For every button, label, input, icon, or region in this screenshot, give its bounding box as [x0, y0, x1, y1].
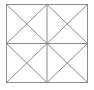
geometric-figure: [0, 0, 94, 90]
figure-line-group: [7, 5, 88, 83]
figure-canvas: [0, 0, 94, 90]
